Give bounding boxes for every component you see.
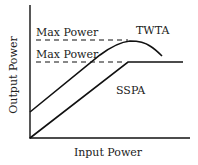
max-power-lower-label: Max Power bbox=[36, 48, 99, 61]
amplifier-characteristic-diagram: Max Power Max Power TWTA SSPA Input Powe… bbox=[0, 0, 198, 165]
y-axis-label: Output Power bbox=[7, 36, 20, 114]
sspa-label: SSPA bbox=[116, 84, 146, 97]
x-axis-label: Input Power bbox=[74, 146, 143, 159]
sspa-curve bbox=[30, 62, 183, 138]
max-power-upper-label: Max Power bbox=[36, 26, 99, 39]
twta-label: TWTA bbox=[136, 24, 170, 37]
